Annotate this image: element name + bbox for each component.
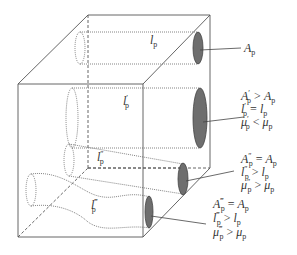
pore-3-length-sub: p [100,157,104,166]
pore-1-area-sub: p [251,48,255,57]
pore-1-leader-line [200,48,241,50]
pore-4-inlet [26,174,36,206]
pore-3-mobility-rhs: μ [263,178,270,192]
block-box [18,15,210,237]
pore-3-mobility-rhs-sub: p [270,185,274,194]
pore-1-outlet-area [193,32,203,64]
pore-3-leader-line [186,171,234,181]
pore-2-area-operator: > [251,89,264,103]
pore-1-area-label: Ap [243,41,255,57]
pore-3-inlet [64,144,74,176]
pore-1-length-sub: p [153,40,157,49]
pore-3-area-operator: = [253,152,266,166]
pore-2-area-rhs-sub: p [271,96,275,105]
pore-4-mobility-relation: μ‴p > μp [212,225,246,241]
pore-2-mobility-rhs-sub: p [269,122,273,131]
pore-4-mobility-rhs-sub: p [242,232,246,241]
pore-4-area-operator: = [225,197,238,211]
pore-4-mobility-lhs: μ [212,225,219,239]
pore-3-area-rhs-sub: p [273,159,277,168]
pore-3-mobility-lhs: μ [240,178,247,192]
pore-4-length-sub: p [92,205,96,214]
pore-2-inlet [66,88,78,148]
pore-2 [66,88,244,148]
pore-4-relations: A‴p = Apl‴p > lpμ‴p > μp [212,197,249,241]
pore-3-top-wall [69,144,183,164]
pore-3-mobility-relation: μ″p > μp [240,178,274,194]
pore-4-outlet-area [145,196,153,228]
pore-4-area-rhs-sub: p [245,204,249,213]
pore-2-mobility-rhs: μ [262,115,269,129]
pore-3-relations: A″p = Apl″p > lpμ″p > μp [240,152,277,194]
pore-3-length-label: l″p [97,150,104,166]
box-bottom-left-hidden-diagonal [18,168,88,237]
pore-3-length-operator: > [249,165,262,179]
pore-4-top-wall [31,173,150,197]
pore-1-inlet [75,32,85,64]
pore-3-mobility-operator: > [251,178,264,192]
pore-2-length-operator: = [247,102,260,116]
pore-2-relations: A′p > Apl′p = lpμ′p < μp [240,89,275,131]
pore-4-mobility-operator: > [223,225,236,239]
pore-2-outlet-area [193,88,207,148]
porous-block-diagram: lp l′p l″p l‴p Ap A′p > Apl′p = lpμ′p < … [0,0,297,255]
pore-2-length-label: l′p [123,94,129,110]
pore-1-length-label: lp [150,33,157,49]
pore-1 [75,32,241,64]
pore-4-mobility-rhs: μ [235,225,242,239]
pore-2-mobility-operator: < [250,115,263,129]
pore-4-length-label: l‴p [91,198,98,214]
pore-2-length-sub: p [125,101,129,110]
box-top-left-depth-edge [18,15,88,84]
pore-4-length-operator: > [221,211,234,225]
pore-2-leader-line [203,117,244,122]
pore-2-mobility-relation: μ′p < μp [240,115,273,131]
